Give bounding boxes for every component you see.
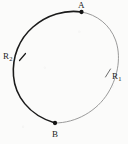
point-marker-a	[79, 10, 83, 14]
ellipse-dark-arc	[13, 11, 81, 123]
arc-tick-r2	[20, 54, 26, 61]
ellipse-drawing	[0, 0, 128, 144]
arc-tick-r1	[106, 69, 111, 77]
point-label-a: A	[78, 1, 85, 10]
arc-label-r2-subscript: 2	[9, 55, 12, 62]
arc-label-r1-subscript: 1	[118, 75, 121, 82]
arc-label-r2: R2	[3, 52, 12, 61]
point-marker-b	[53, 121, 57, 125]
point-label-b: B	[52, 130, 58, 139]
orbit-ellipse-figure: A B R1 R2	[0, 0, 128, 144]
arc-label-r1: R1	[112, 72, 121, 81]
ellipse-light-arc	[55, 12, 118, 123]
